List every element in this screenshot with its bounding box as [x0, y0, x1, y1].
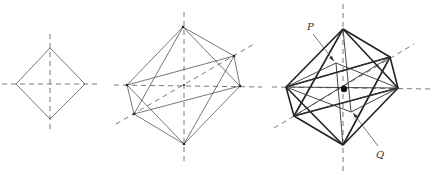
diamond-outline [16, 48, 85, 119]
figure-canvas: P Q [0, 0, 435, 178]
center-dot [341, 86, 347, 92]
panel-3-octahedron-inner: P Q [272, 4, 432, 172]
label-p: P [306, 21, 314, 32]
panel-1-diamond [2, 34, 100, 132]
q-leader-line [353, 113, 378, 146]
panel-2-octahedron [114, 12, 262, 162]
label-q: Q [376, 149, 384, 160]
